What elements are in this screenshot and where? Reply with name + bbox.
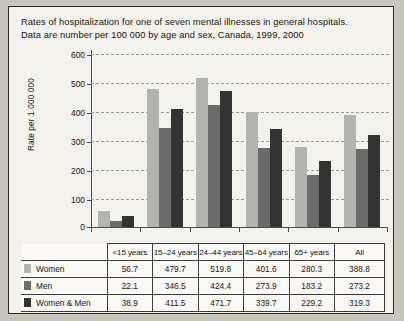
table-column-header: 45–64 years — [244, 244, 290, 261]
table-cell: 56.7 — [107, 261, 153, 278]
table-cell: 519.8 — [198, 261, 244, 278]
bar-groups — [91, 54, 387, 227]
table-cell: 183.2 — [289, 278, 335, 295]
table-column-header: <15 years — [107, 244, 153, 261]
bar-both — [270, 129, 282, 227]
bar-men — [110, 221, 122, 227]
caption-line-1: Rates of hospitalization for one of seve… — [21, 16, 383, 29]
y-axis-tick-label: 300 — [71, 137, 85, 147]
table-row: Women56.7479.7519.8401.6280.3388.8 — [21, 261, 385, 278]
table-cell: 339.7 — [244, 295, 290, 312]
bar-both — [171, 109, 183, 228]
table-cell: 319.3 — [335, 295, 385, 312]
table-cell: 273.9 — [244, 278, 290, 295]
bar-women — [344, 115, 356, 227]
figure-panel: Rates of hospitalization for one of seve… — [8, 6, 394, 314]
bar-women — [147, 89, 159, 227]
bar-men — [258, 148, 270, 227]
bar-women — [196, 78, 208, 228]
legend-label: Men — [36, 281, 52, 291]
bar-chart: Rate per 1 000 000 0100200300400500600 — [9, 48, 393, 244]
figure-caption: Rates of hospitalization for one of seve… — [9, 7, 393, 42]
legend-entry: Men — [21, 278, 107, 295]
bar-group — [91, 54, 140, 227]
y-axis-tick-label: 200 — [71, 166, 85, 176]
x-axis-separator — [239, 227, 240, 232]
bar-men — [208, 105, 220, 227]
bar-women — [295, 147, 307, 228]
table-corner-cell — [21, 244, 107, 261]
legend-entry: Women — [21, 261, 107, 278]
table-header-row: <15 years15–24 years24–44 years45–64 yea… — [21, 244, 385, 261]
bar-group — [338, 54, 387, 227]
table-cell: 38.9 — [107, 295, 153, 312]
table-column-header: 15–24 years — [153, 244, 199, 261]
x-axis-separator — [190, 227, 191, 232]
table-cell: 280.3 — [289, 261, 335, 278]
bar-both — [319, 161, 331, 227]
legend-swatch-icon — [24, 281, 31, 290]
table-cell: 388.8 — [335, 261, 385, 278]
data-table: <15 years15–24 years24–44 years45–64 yea… — [21, 243, 385, 312]
legend-label: Women — [36, 264, 64, 274]
table-row: Women & Men38.9411.5471.7339.7229.2319.3 — [21, 295, 385, 312]
table-cell: 479.7 — [153, 261, 199, 278]
bar-men — [307, 175, 319, 228]
bar-group — [140, 54, 189, 227]
bar-women — [98, 211, 110, 227]
legend-label: Women & Men — [36, 298, 91, 308]
y-axis-tick-label: 100 — [71, 195, 85, 205]
table-cell: 411.5 — [153, 295, 199, 312]
bar-both — [220, 91, 232, 227]
bar-group — [288, 54, 337, 227]
x-axis-separator — [91, 227, 92, 232]
y-axis-title: Rate per 1 000 000 — [27, 49, 36, 181]
x-axis-separator — [288, 227, 289, 232]
x-axis-separator — [387, 227, 388, 232]
legend-swatch-icon — [24, 298, 31, 307]
table-column-header: 65+ years — [289, 244, 335, 261]
legend-entry: Women & Men — [21, 295, 107, 312]
x-axis-separator — [140, 227, 141, 232]
table-cell: 424.4 — [198, 278, 244, 295]
table-cell: 229.2 — [289, 295, 335, 312]
table-cell: 471.7 — [198, 295, 244, 312]
legend-swatch-icon — [24, 264, 31, 273]
table-cell: 346.5 — [153, 278, 199, 295]
bar-men — [356, 149, 368, 228]
table-row: Men22.1346.5424.4273.9183.2273.2 — [21, 278, 385, 295]
bar-group — [190, 54, 239, 227]
table-cell: 273.2 — [335, 278, 385, 295]
y-axis-tick-label: 400 — [71, 108, 85, 118]
bar-women — [246, 112, 258, 228]
x-axis-separator — [338, 227, 339, 232]
y-axis-tick-label: 600 — [71, 50, 85, 60]
table-cell: 22.1 — [107, 278, 153, 295]
table-column-header: All — [335, 244, 385, 261]
data-table-wrap: <15 years15–24 years24–44 years45–64 yea… — [21, 243, 385, 312]
table-column-header: 24–44 years — [198, 244, 244, 261]
bar-both — [122, 216, 134, 227]
caption-line-2: Data are number per 100 000 by age and s… — [21, 29, 383, 42]
bar-both — [368, 135, 380, 227]
y-axis-tick-label: 0 — [80, 222, 85, 232]
plot-area: 0100200300400500600 — [91, 54, 387, 228]
y-axis-tick-label: 500 — [71, 79, 85, 89]
bar-group — [239, 54, 288, 227]
bar-men — [159, 128, 171, 228]
table-cell: 401.6 — [244, 261, 290, 278]
